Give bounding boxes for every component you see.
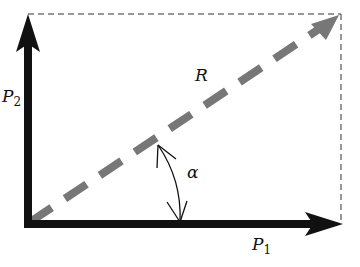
force-diagram: P2 P1 R α xyxy=(0,0,360,267)
label-p2: P2 xyxy=(2,88,21,108)
resultant-vector-r xyxy=(30,15,339,222)
label-r: R xyxy=(195,67,208,84)
vector-p1 xyxy=(24,212,343,236)
diagram-graphics xyxy=(0,0,360,267)
label-p1: P1 xyxy=(252,236,271,256)
vector-p2 xyxy=(16,14,40,228)
label-alpha: α xyxy=(187,164,198,181)
angle-alpha-arc xyxy=(157,145,187,222)
